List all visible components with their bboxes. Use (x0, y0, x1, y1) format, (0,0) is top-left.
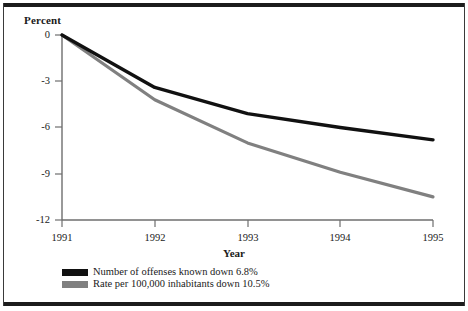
legend-swatch-black-icon (62, 269, 88, 276)
legend-swatch-gray-icon (62, 281, 88, 288)
chart-svg (0, 0, 468, 311)
plot-area (0, 0, 468, 311)
x-tick-label-1994: 1994 (315, 232, 365, 243)
x-tick-label-1992: 1992 (130, 232, 180, 243)
legend-label-offenses: Number of offenses known down 6.8% (93, 266, 258, 278)
chart-legend: Number of offenses known down 6.8% Rate … (62, 266, 269, 290)
chart-figure: Percent (0, 0, 468, 311)
series-line-offenses (62, 35, 433, 140)
y-tick-label-neg6: -6 (20, 121, 50, 132)
x-tick-label-1995: 1995 (408, 232, 458, 243)
legend-item-offenses: Number of offenses known down 6.8% (62, 266, 269, 278)
legend-item-rate: Rate per 100,000 inhabitants down 10.5% (62, 278, 269, 290)
x-tick-label-1991: 1991 (37, 232, 87, 243)
x-axis-ticks (62, 220, 433, 227)
y-tick-label-neg9: -9 (20, 168, 50, 179)
series-line-rate (62, 35, 433, 197)
x-axis-title: Year (0, 247, 468, 259)
x-tick-label-1993: 1993 (223, 232, 273, 243)
y-tick-label-neg3: -3 (20, 75, 50, 86)
legend-label-rate: Rate per 100,000 inhabitants down 10.5% (93, 278, 269, 290)
y-tick-label-0: 0 (20, 29, 50, 40)
y-axis-ticks (55, 35, 62, 220)
y-tick-label-neg12: -12 (20, 214, 50, 225)
